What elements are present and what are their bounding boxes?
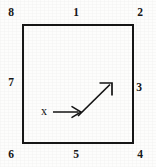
node-label-1: 1 [70,7,82,19]
node-label-8: 8 [5,7,17,19]
node-label-7: 7 [5,77,17,89]
square-direction-diagram: 8 1 2 3 4 5 6 7 x [0,0,156,167]
diagonal-arrow-shaft [78,85,110,117]
node-label-6: 6 [5,149,17,161]
node-label-2: 2 [134,7,146,19]
x-axis-label: x [41,105,47,117]
node-label-5: 5 [70,149,82,161]
node-label-3: 3 [133,82,145,94]
square-outline [23,25,133,143]
node-label-4: 4 [134,149,146,161]
